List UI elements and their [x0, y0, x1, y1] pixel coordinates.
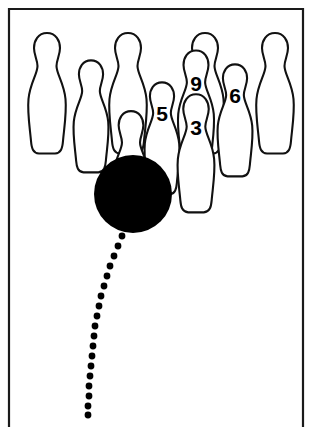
- pin-number-label-3: 3: [190, 116, 202, 139]
- trajectory-dot: [92, 323, 99, 330]
- trajectory-dot: [119, 233, 126, 240]
- bowling-pin-3: [178, 94, 215, 212]
- bowling-pin-pin-back-left-1: [28, 33, 66, 154]
- trajectory-dot: [86, 393, 93, 400]
- trajectory-dot: [87, 373, 94, 380]
- bowling-ball-circle: [94, 155, 172, 233]
- trajectory-dot: [98, 293, 105, 300]
- bowling-pin-6: [217, 64, 252, 176]
- bowling-pin-pin-back-left-2: [73, 60, 108, 172]
- pin-number-label-9: 9: [190, 72, 202, 95]
- ball-trajectory-dotted-path: [85, 233, 126, 419]
- trajectory-dot: [96, 303, 103, 310]
- bowling-pin-pin-back-right-2: [256, 33, 294, 154]
- bowling-ball: [94, 155, 172, 233]
- bowling-diagram-root: 5693: [0, 0, 315, 427]
- trajectory-dot: [85, 403, 92, 410]
- trajectory-dot: [85, 412, 92, 419]
- trajectory-dot: [94, 313, 101, 320]
- trajectory-dot: [104, 273, 111, 280]
- trajectory-dot: [101, 283, 108, 290]
- trajectory-dot: [90, 343, 97, 350]
- trajectory-dot: [107, 263, 114, 270]
- pin-number-label-5: 5: [156, 102, 168, 125]
- pin-deck-canvas: 5693: [0, 0, 315, 427]
- trajectory-dot: [89, 353, 96, 360]
- trajectory-dot: [115, 243, 122, 250]
- trajectory-dot: [88, 363, 95, 370]
- trajectory-dot: [86, 383, 93, 390]
- pin-number-label-6: 6: [229, 84, 241, 107]
- trajectory-dot: [111, 253, 118, 260]
- trajectory-dot: [91, 333, 98, 340]
